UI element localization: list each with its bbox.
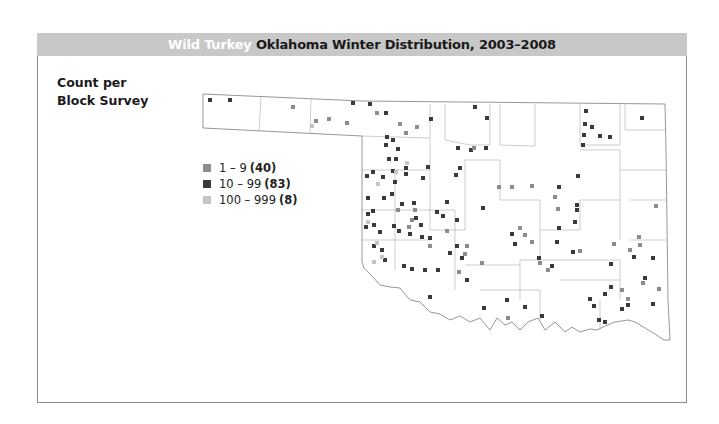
oklahoma-map (0, 0, 719, 424)
